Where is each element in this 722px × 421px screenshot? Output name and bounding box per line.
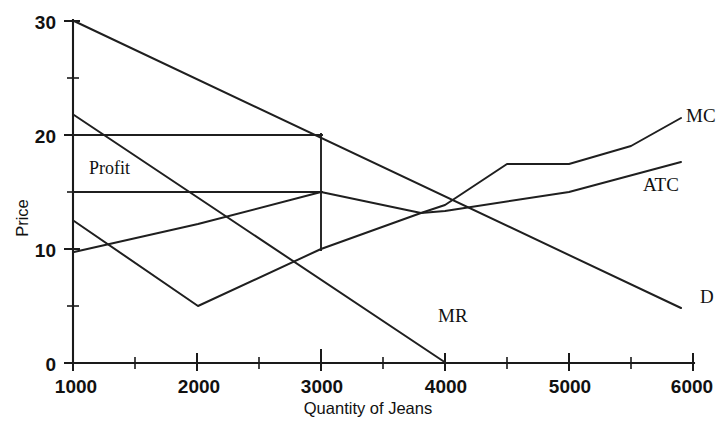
d-curve-label: D (700, 286, 714, 307)
mr-curve-label: MR (438, 305, 468, 326)
x-tick-marks (73, 349, 693, 371)
x-tick-label-2000: 2000 (178, 376, 220, 397)
x-tick-label-4000: 4000 (425, 376, 467, 397)
y-tick-label-20: 20 (35, 126, 56, 147)
x-tick-label-3000: 3000 (301, 376, 343, 397)
x-tick-label-6000: 6000 (671, 376, 713, 397)
x-tick-label-1000: 1000 (55, 376, 97, 397)
y-tick-label-0: 0 (45, 354, 56, 375)
y-tick-label-30: 30 (35, 12, 56, 33)
guide-lines-group (73, 134, 322, 250)
atc-curve-label: ATC (643, 174, 679, 195)
y-tick-label-10: 10 (35, 240, 56, 261)
demand-curve (74, 21, 681, 308)
marginal-cost-curve (74, 118, 681, 306)
x-axis-title: Quantity of Jeans (304, 399, 432, 417)
y-axis-title: Price (13, 199, 31, 237)
chart-canvas: 0 10 20 30 1000 2000 3000 4000 5000 6000… (0, 0, 722, 421)
monopoly-profit-chart: 0 10 20 30 1000 2000 3000 4000 5000 6000… (0, 0, 722, 421)
x-tick-label-5000: 5000 (549, 376, 591, 397)
mc-curve-label: MC (686, 105, 716, 126)
profit-region-label: Profit (89, 158, 130, 178)
